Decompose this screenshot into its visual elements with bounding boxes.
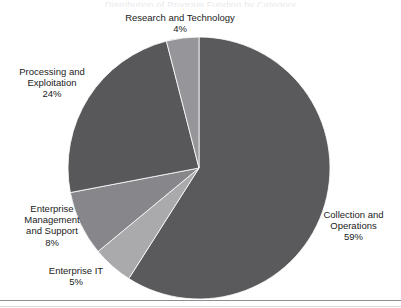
- pie-chart-svg: [0, 0, 401, 308]
- pie-label-collection-line2: Operations: [306, 220, 401, 231]
- pie-label-enterprise-it: Enterprise IT 5%: [26, 265, 126, 287]
- pie-chart-figure: Distribution of Program Funding by Categ…: [0, 0, 401, 308]
- bottom-rule-divider: [0, 300, 401, 301]
- pie-label-enterprise-management-and-support: Enterprise Management and Support 8%: [0, 203, 104, 248]
- pie-label-research-and-technology: Research and Technology 4%: [104, 12, 256, 34]
- pie-label-processing-percent: 24%: [2, 88, 102, 99]
- pie-label-entit-percent: 5%: [26, 276, 126, 287]
- pie-label-collection-line1: Collection and: [306, 209, 401, 220]
- pie-label-entmgmt-line1: Enterprise: [0, 203, 104, 214]
- pie-label-collection-and-operations: Collection and Operations 59%: [306, 209, 401, 243]
- pie-label-collection-percent: 59%: [306, 231, 401, 242]
- pie-label-processing-line2: Exploitation: [2, 77, 102, 88]
- pie-label-entmgmt-line2: Management: [0, 214, 104, 225]
- pie-label-entmgmt-line3: and Support: [0, 225, 104, 236]
- pie-label-research-name: Research and Technology: [104, 12, 256, 23]
- pie-label-research-percent: 4%: [104, 23, 256, 34]
- pie-label-processing-and-exploitation: Processing and Exploitation 24%: [2, 66, 102, 100]
- pie-slice-group: [68, 37, 330, 299]
- pie-label-processing-line1: Processing and: [2, 66, 102, 77]
- pie-label-entmgmt-percent: 8%: [0, 237, 104, 248]
- bottom-rule-divider-secondary: [0, 306, 401, 307]
- pie-label-entit-name: Enterprise IT: [26, 265, 126, 276]
